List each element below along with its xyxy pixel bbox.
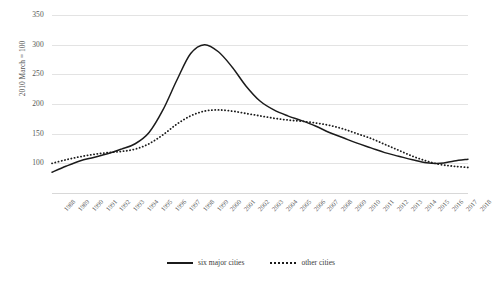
- x-axis-line: [52, 193, 468, 194]
- x-axis-tick-1992: 1992: [118, 198, 132, 212]
- x-axis-tick-2001: 2001: [243, 198, 257, 212]
- x-axis-tick-2018: 2018: [478, 198, 492, 212]
- x-axis-tick-2007: 2007: [326, 198, 340, 212]
- legend-swatch-solid-icon: [167, 262, 193, 264]
- series-line-six-major-cities: [52, 45, 468, 173]
- legend-label: other cities: [301, 258, 335, 267]
- legend-item-other-cities: other cities: [270, 258, 335, 267]
- x-axis-tick-2014: 2014: [423, 198, 437, 212]
- x-axis-tick-1993: 1993: [132, 198, 146, 212]
- x-axis-tick-2017: 2017: [464, 198, 478, 212]
- y-axis-tick-200: 200: [4, 99, 44, 108]
- x-axis-tick-2008: 2008: [340, 198, 354, 212]
- y-axis-tick-300: 300: [4, 40, 44, 49]
- x-axis-tick-1996: 1996: [173, 198, 187, 212]
- x-axis-tick-2011: 2011: [381, 198, 395, 212]
- legend-swatch-dotted-icon: [270, 262, 296, 264]
- x-axis-tick-1998: 1998: [201, 198, 215, 212]
- x-axis-tick-1997: 1997: [187, 198, 201, 212]
- x-axis-tick-2016: 2016: [451, 198, 465, 212]
- y-axis-tick-350: 350: [4, 10, 44, 19]
- x-axis-tick-2004: 2004: [284, 198, 298, 212]
- series-line-other-cities: [52, 110, 468, 168]
- x-axis-tick-1990: 1990: [90, 198, 104, 212]
- x-axis-tick-2006: 2006: [312, 198, 326, 212]
- x-axis-tick-2015: 2015: [437, 198, 451, 212]
- chart-legend: six major cities other cities: [0, 258, 502, 267]
- plot-area: [52, 15, 468, 193]
- line-chart: 2010 March = 100 350300250200150100 1988…: [0, 0, 502, 285]
- x-axis-tick-1994: 1994: [146, 198, 160, 212]
- x-axis-tick-1988: 1988: [62, 198, 76, 212]
- x-axis-tick-2002: 2002: [256, 198, 270, 212]
- y-axis-tick-150: 150: [4, 129, 44, 138]
- x-axis-tick-1991: 1991: [104, 198, 118, 212]
- x-axis-tick-2009: 2009: [354, 198, 368, 212]
- legend-label: six major cities: [198, 258, 244, 267]
- x-axis-tick-2005: 2005: [298, 198, 312, 212]
- x-axis-tick-2003: 2003: [270, 198, 284, 212]
- y-axis-tick-250: 250: [4, 69, 44, 78]
- x-axis-tick-1995: 1995: [159, 198, 173, 212]
- x-axis-tick-2013: 2013: [409, 198, 423, 212]
- x-axis-tick-1999: 1999: [215, 198, 229, 212]
- x-axis-tick-1989: 1989: [76, 198, 90, 212]
- series-lines: [52, 15, 468, 193]
- x-axis-tick-2010: 2010: [367, 198, 381, 212]
- x-axis-tick-2012: 2012: [395, 198, 409, 212]
- x-axis-tick-2000: 2000: [229, 198, 243, 212]
- legend-item-six-major-cities: six major cities: [167, 258, 244, 267]
- y-axis-tick-100: 100: [4, 158, 44, 167]
